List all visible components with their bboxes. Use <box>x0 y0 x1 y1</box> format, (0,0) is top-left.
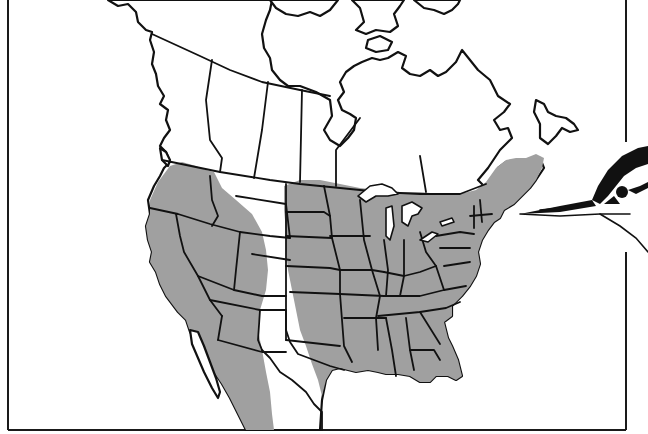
bird-eye <box>616 186 628 198</box>
bird-throat-line <box>600 214 648 252</box>
bird-bill-upper <box>520 200 596 214</box>
bird-bill-lower <box>520 214 630 216</box>
range-map <box>0 0 648 434</box>
